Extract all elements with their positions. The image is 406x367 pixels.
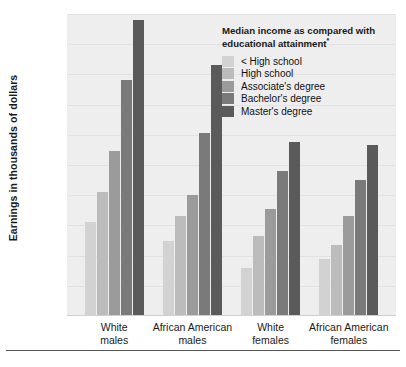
bar <box>187 195 198 316</box>
bar <box>199 133 210 316</box>
legend-swatch <box>222 56 234 67</box>
bar <box>265 209 276 316</box>
bar-group <box>161 14 223 316</box>
y-axis-title-text: Earnings in thousands of dollars <box>7 75 19 242</box>
legend-item-label: Bachelor's degree <box>241 93 321 104</box>
legend-swatch <box>222 81 234 92</box>
bar <box>211 65 222 316</box>
legend-item: Master's degree <box>222 105 392 118</box>
legend-item: High school <box>222 68 392 81</box>
bar <box>355 180 366 316</box>
legend-swatch <box>222 93 234 104</box>
bar <box>331 245 342 316</box>
axis-baseline <box>67 315 396 316</box>
legend-item: Associate's degree <box>222 80 392 93</box>
bar <box>121 80 132 316</box>
legend-item-label: High school <box>241 68 293 79</box>
bar-group <box>83 14 145 316</box>
bar <box>343 216 354 316</box>
x-axis-label: African Americanfemales <box>289 321 406 347</box>
x-axis-label-line: African American <box>289 321 406 334</box>
bar <box>163 241 174 317</box>
legend-item-label: Associate's degree <box>241 81 325 92</box>
bar <box>133 20 144 316</box>
legend-title: Median income as compared with education… <box>222 25 392 50</box>
legend-swatch <box>222 68 234 79</box>
bar <box>85 222 96 316</box>
bottom-rule <box>6 350 400 351</box>
bar <box>367 145 378 316</box>
bar <box>241 268 252 316</box>
bar <box>253 236 264 316</box>
bar <box>109 151 120 316</box>
chart-figure: Earnings in thousands of dollars $0$10$2… <box>0 0 406 367</box>
legend-item: < High school <box>222 55 392 68</box>
legend-item-label: < High school <box>241 56 302 67</box>
legend-item-label: Master's degree <box>241 106 312 117</box>
legend-title-footnote-marker: * <box>326 36 329 43</box>
x-axis-label-line: females <box>289 334 406 347</box>
bar <box>277 171 288 316</box>
legend: Median income as compared with education… <box>222 25 392 118</box>
legend-items: < High schoolHigh schoolAssociate's degr… <box>222 55 392 118</box>
bar <box>319 259 330 316</box>
bar <box>175 216 186 316</box>
bar <box>97 192 108 316</box>
legend-swatch <box>222 106 234 117</box>
bar <box>289 142 300 316</box>
legend-item: Bachelor's degree <box>222 93 392 106</box>
y-axis-title: Earnings in thousands of dollars <box>0 0 26 316</box>
